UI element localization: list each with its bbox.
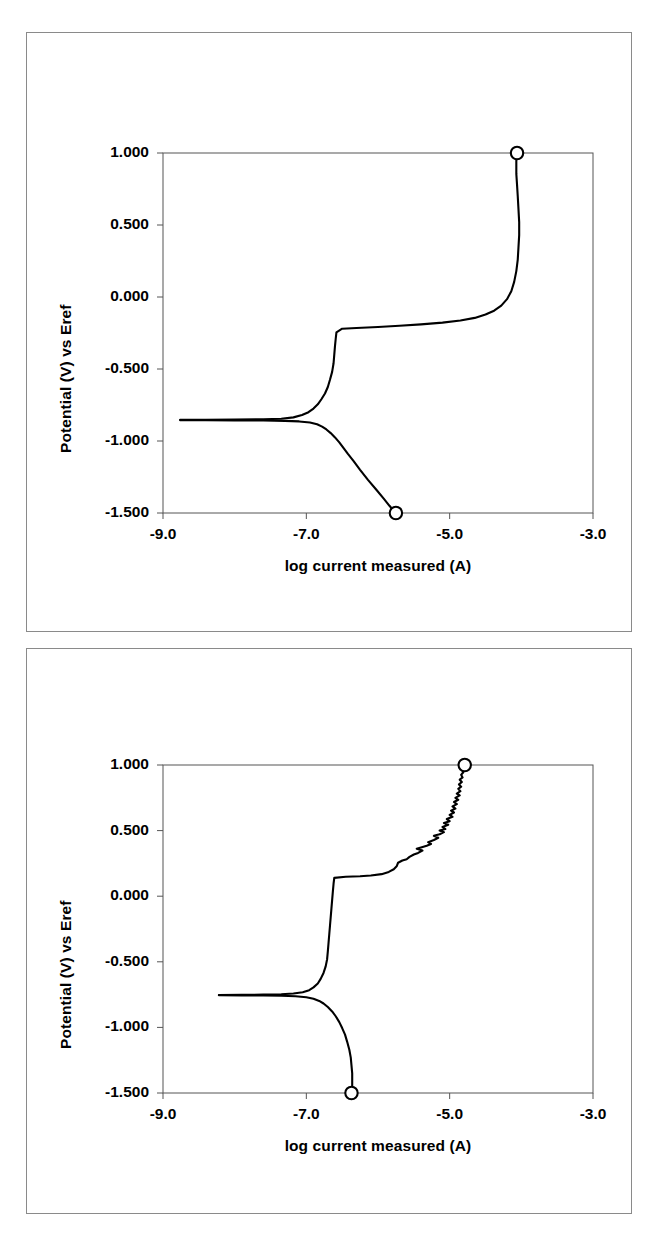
y-tick-label: 0.500 (83, 821, 149, 839)
y-tick-label: 1.000 (83, 143, 149, 161)
y-tick-label: -1.500 (83, 503, 149, 521)
series-cathodic-branch (219, 995, 352, 1093)
series-anodic-branch (219, 765, 465, 995)
plot-frame (163, 153, 593, 513)
polarization-chart-1: Potential (V) vs Eref log current measur… (27, 33, 631, 631)
series-anodic-branch (180, 153, 519, 420)
x-tick-label: -9.0 (133, 1105, 193, 1123)
x-axis-title-1: log current measured (A) (163, 557, 593, 575)
y-tick-label: -0.500 (83, 952, 149, 970)
x-axis-title-2: log current measured (A) (163, 1137, 593, 1155)
y-tick-label: -1.000 (83, 431, 149, 449)
endpoint-marker (511, 147, 523, 159)
y-tick-label: -1.000 (83, 1017, 149, 1035)
plot-area-figure-1 (27, 33, 633, 633)
figure-panel-bottom: Potential (V) vs Eref log current measur… (26, 648, 632, 1214)
endpoint-marker (345, 1087, 357, 1099)
x-tick-label: -3.0 (563, 1105, 623, 1123)
endpoint-marker (459, 759, 471, 771)
x-tick-label: -7.0 (276, 1105, 336, 1123)
y-tick-label: 0.000 (83, 886, 149, 904)
y-tick-label: 1.000 (83, 755, 149, 773)
plot-area-figure-2 (27, 649, 633, 1215)
y-tick-label: -1.500 (83, 1083, 149, 1101)
y-axis-title-2: Potential (V) vs Eref (57, 900, 75, 1049)
x-tick-label: -5.0 (420, 1105, 480, 1123)
endpoint-marker (390, 507, 402, 519)
x-tick-label: -5.0 (420, 525, 480, 543)
figure-panel-top: Potential (V) vs Eref log current measur… (26, 32, 632, 632)
document-page: Potential (V) vs Eref log current measur… (0, 0, 662, 1248)
y-tick-label: 0.500 (83, 215, 149, 233)
y-tick-label: -0.500 (83, 359, 149, 377)
polarization-chart-2: Potential (V) vs Eref log current measur… (27, 649, 631, 1213)
y-tick-label: 0.000 (83, 287, 149, 305)
x-tick-label: -9.0 (133, 525, 193, 543)
y-axis-title-1: Potential (V) vs Eref (57, 304, 75, 453)
series-cathodic-branch (180, 420, 396, 513)
x-tick-label: -7.0 (276, 525, 336, 543)
plot-frame (163, 765, 593, 1093)
x-tick-label: -3.0 (563, 525, 623, 543)
